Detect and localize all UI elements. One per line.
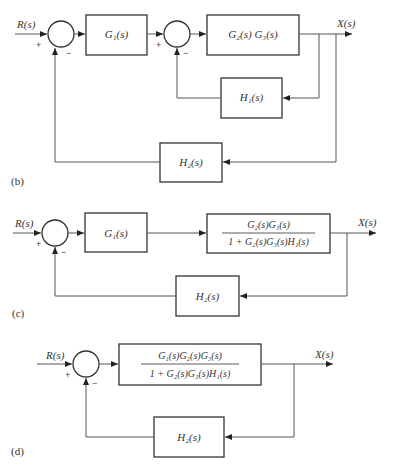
minus-sign: − xyxy=(66,48,71,58)
block-h1-label: H₁(s) xyxy=(239,91,264,104)
fraction-numerator: G₂(s)G₃(s) xyxy=(247,219,290,231)
fraction-denominator: 1 + G₂(s)G₃(s)H₁(s) xyxy=(228,236,309,248)
panel-label-b: (b) xyxy=(11,175,24,188)
fraction-denominator: 1 + G₂(s)G₃(s)H₁(s) xyxy=(150,368,231,380)
plus-sign: + xyxy=(156,40,161,50)
plus-sign: + xyxy=(65,370,70,380)
fraction-numerator: G₁(s)G₂(s)G₃(s) xyxy=(158,350,222,362)
block-h2-label: H₂(s) xyxy=(195,290,220,303)
block-g2g3-label: G₂(s) G₃(s) xyxy=(228,28,278,41)
block-h2-label: H₂(s) xyxy=(178,156,203,169)
panel-label-d: (d) xyxy=(11,445,24,458)
feedback-path-h2-out xyxy=(55,48,160,162)
block-g1-label: G₁(s) xyxy=(105,28,129,41)
output-label-x: X(s) xyxy=(357,216,377,229)
input-label-r: R(s) xyxy=(45,349,65,362)
plus-sign: + xyxy=(36,239,41,249)
block-h2-label: H₂(s) xyxy=(176,431,201,444)
minus-sign: − xyxy=(183,48,188,58)
block-diagram-reduction: R(s) + − G₁(s) + − G₂(s) G₃(s) X(s) H₁(s… xyxy=(0,0,393,467)
input-label-r: R(s) xyxy=(16,18,36,31)
minus-sign: − xyxy=(61,247,66,257)
summing-junction-1 xyxy=(48,21,74,47)
diagram-b: R(s) + − G₁(s) + − G₂(s) G₃(s) X(s) H₁(s… xyxy=(11,15,356,188)
plus-sign: + xyxy=(36,40,41,50)
diagram-c: R(s) + − G₁(s) G₂(s)G₃(s) 1 + G₂(s)G₃(s)… xyxy=(12,213,377,320)
summing-junction-1 xyxy=(42,220,68,246)
feedback-path-h2-out xyxy=(55,247,176,296)
diagram-d: R(s) + − G₁(s)G₂(s)G₃(s) 1 + G₂(s)G₃(s)H… xyxy=(11,344,334,458)
output-label-x: X(s) xyxy=(314,348,334,361)
minus-sign: − xyxy=(92,378,97,388)
block-g1-label: G₁(s) xyxy=(104,227,128,240)
summing-junction-1 xyxy=(73,351,99,377)
output-label-x: X(s) xyxy=(336,17,356,30)
summing-junction-2 xyxy=(164,21,190,47)
panel-label-c: (c) xyxy=(12,307,25,320)
input-label-r: R(s) xyxy=(14,217,34,230)
